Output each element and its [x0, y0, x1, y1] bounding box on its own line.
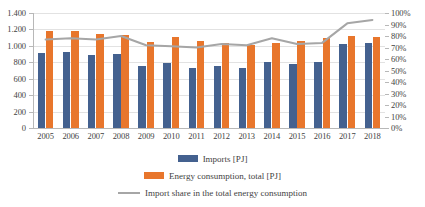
legend-label-total-consumption: Energy consumption, total [PJ] — [169, 171, 281, 181]
x-axis-tick-label: 2014 — [258, 132, 286, 141]
x-axis-tick-label: 2016 — [308, 132, 336, 141]
left-axis-tick-label: 800 — [0, 58, 26, 67]
legend-label-import-share: Import share in the total energy consump… — [145, 188, 307, 198]
x-axis-tick-label: 2017 — [333, 132, 361, 141]
right-axis-tick — [385, 82, 389, 83]
x-axis-tick-label: 2013 — [233, 132, 261, 141]
chart-container: 02004006008001.0001.2001.400 0%10%20%30%… — [0, 0, 425, 207]
x-axis-tick-label: 2010 — [157, 132, 185, 141]
legend-item-imports[interactable]: Imports [PJ] — [0, 150, 425, 167]
left-axis-tick — [29, 128, 33, 129]
right-axis-tick-label: 20% — [391, 101, 421, 110]
right-axis-tick-label: 0% — [391, 124, 421, 133]
right-axis-tick-label: 90% — [391, 21, 421, 30]
right-axis-tick — [385, 36, 389, 37]
right-axis-tick-label: 50% — [391, 67, 421, 76]
x-axis-line — [33, 128, 385, 129]
right-axis-tick-label: 60% — [391, 55, 421, 64]
right-axis-tick — [385, 128, 389, 129]
right-axis-tick-label: 80% — [391, 32, 421, 41]
right-axis-tick-label: 40% — [391, 78, 421, 87]
right-axis-tick — [385, 105, 389, 106]
right-axis-tick-label: 30% — [391, 90, 421, 99]
legend-swatch-imports-icon — [178, 155, 198, 162]
x-axis-tick-label: 2007 — [82, 132, 110, 141]
import-share-line-series — [33, 13, 385, 128]
x-axis-tick-label: 2018 — [358, 132, 386, 141]
legend-item-import-share[interactable]: Import share in the total energy consump… — [0, 184, 425, 201]
x-axis-tick-label: 2006 — [57, 132, 85, 141]
right-axis-tick — [385, 59, 389, 60]
legend-label-imports: Imports [PJ] — [203, 154, 248, 164]
right-axis-tick — [385, 48, 389, 49]
x-axis-tick-label: 2005 — [32, 132, 60, 141]
left-axis-tick-label: 200 — [0, 108, 26, 117]
right-axis-tick — [385, 25, 389, 26]
left-axis-tick-label: 400 — [0, 91, 26, 100]
x-axis-tick-label: 2015 — [283, 132, 311, 141]
chart-legend: Imports [PJ] Energy consumption, total [… — [0, 150, 425, 201]
legend-item-total-consumption[interactable]: Energy consumption, total [PJ] — [0, 167, 425, 184]
left-axis-tick-label: 1.400 — [0, 9, 26, 18]
left-axis-tick-label: 1.000 — [0, 42, 26, 51]
right-axis-tick — [385, 94, 389, 95]
right-axis-tick-label: 100% — [391, 9, 421, 18]
left-axis-tick-label: 600 — [0, 75, 26, 84]
x-axis-tick-label: 2008 — [107, 132, 135, 141]
x-axis-tick-label: 2011 — [182, 132, 210, 141]
left-axis-tick-label: 1.200 — [0, 25, 26, 34]
legend-swatch-total-icon — [144, 172, 164, 179]
legend-swatch-line-icon — [118, 192, 140, 194]
import-share-line — [46, 20, 373, 48]
right-axis-tick — [385, 13, 389, 14]
right-axis-tick-label: 70% — [391, 44, 421, 53]
x-axis-tick-label: 2012 — [208, 132, 236, 141]
right-axis-tick — [385, 71, 389, 72]
right-axis-tick-label: 10% — [391, 113, 421, 122]
left-axis-tick-label: 0 — [0, 124, 26, 133]
x-axis-tick-label: 2009 — [132, 132, 160, 141]
right-axis-tick — [385, 117, 389, 118]
